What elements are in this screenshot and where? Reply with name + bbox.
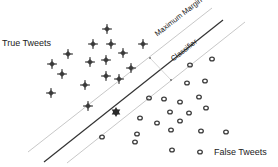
margin-tick [170,79,172,81]
star-point-icon [57,69,67,79]
circle-point-icon [155,121,160,125]
circle-point-icon [187,111,192,115]
circle-point-icon [178,100,183,104]
circle-point-icon [197,95,202,99]
star-point-icon [118,48,128,58]
diagram-canvas [0,0,278,167]
star-point-icon [101,71,111,81]
circle-point-icon [178,119,183,123]
circle-point-icon [210,57,215,61]
circle-point-icon [198,150,203,154]
margin-tick [149,57,151,59]
star-point-icon [80,80,90,90]
star-point-icon [101,55,111,65]
circle-point-icon [199,129,204,133]
margin-bracket [150,58,171,80]
false-tweet-points [100,57,229,154]
star-point-icon [106,39,116,49]
star-point-icon [88,39,98,49]
circle-point-icon [162,97,167,101]
circle-point-icon [168,110,173,114]
support-vector-star-icon [112,107,121,117]
star-point-icon [126,63,136,73]
star-point-icon [102,24,112,34]
circle-point-icon [224,130,229,134]
circle-point-icon [138,116,143,120]
circle-point-icon [135,132,140,136]
star-point-icon [47,59,57,69]
circle-point-icon [203,79,208,83]
star-point-icon [85,57,95,67]
circle-point-icon [170,148,175,152]
true-tweets-label: True Tweets [2,38,51,48]
star-point-icon [63,49,73,59]
svm-diagram: True Tweets False Tweets Maximum Margin … [0,0,278,167]
star-point-icon [114,74,124,84]
circle-point-icon [133,140,138,144]
star-point-icon [46,88,56,98]
circle-point-icon [169,128,174,132]
circle-point-icon [185,81,190,85]
star-point-icon [138,39,148,49]
circle-point-icon [204,106,209,110]
false-tweets-label: False Tweets [214,147,267,157]
